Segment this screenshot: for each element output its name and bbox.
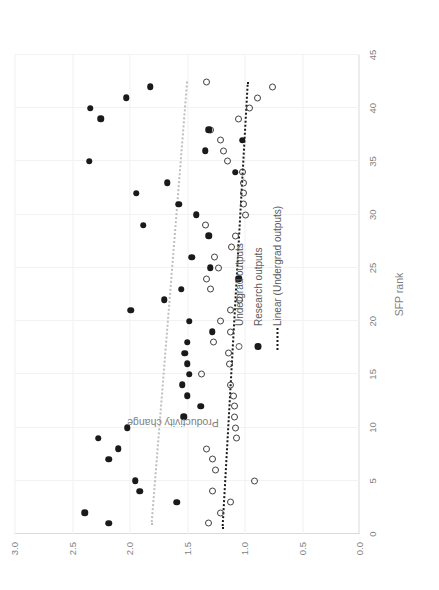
y-axis-title: Productivity change	[0, 251, 345, 590]
gridline-vertical	[14, 107, 359, 108]
data-point-research	[192, 211, 199, 218]
x-tick-label: 15	[366, 369, 377, 380]
gridline-vertical	[14, 214, 359, 215]
legend-label-research-outputs: Research outputs	[251, 248, 264, 326]
data-point-research	[122, 94, 129, 101]
data-point-undergrad	[201, 222, 208, 229]
data-point-research	[175, 201, 182, 208]
rotated-figure-wrapper: 0.00.51.01.52.02.53.0 051015202530354045…	[0, 0, 439, 590]
data-point-undergrad	[220, 147, 227, 154]
filled-circle-icon	[251, 326, 264, 352]
data-point-research	[202, 148, 209, 155]
legend-item-undergrad-outputs: Undergrad outputs	[232, 156, 245, 352]
data-point-research	[205, 126, 212, 133]
data-point-research	[238, 137, 245, 144]
data-point-undergrad	[253, 94, 260, 101]
data-point-research	[140, 222, 147, 229]
x-tick-label: 10	[366, 422, 377, 433]
gridline-vertical	[14, 54, 359, 55]
x-tick-label: 25	[366, 263, 377, 274]
data-point-undergrad	[245, 105, 252, 112]
x-tick-label: 30	[366, 209, 377, 220]
data-point-research	[164, 179, 171, 186]
data-point-undergrad	[203, 78, 210, 85]
data-point-research	[133, 190, 140, 197]
gridline-vertical	[14, 160, 359, 161]
x-tick-label: 45	[366, 50, 377, 61]
legend-label-linear-undergrad-outputs: Linear (Undergrad outputs)	[270, 206, 283, 326]
x-tick-label: 5	[366, 478, 377, 483]
data-point-research	[146, 84, 153, 91]
data-point-undergrad	[268, 83, 275, 90]
chart-legend: Undergrad outputs Research outputs Linea…	[232, 156, 289, 352]
x-tick-label: 20	[366, 316, 377, 327]
legend-item-linear-undergrad-outputs: Linear (Undergrad outputs)	[270, 156, 283, 352]
data-point-research	[86, 158, 93, 165]
data-point-research	[205, 233, 212, 240]
legend-item-research-outputs: Research outputs	[251, 156, 264, 352]
x-tick-label: 40	[366, 103, 377, 114]
y-tick-label: 0.0	[354, 542, 365, 590]
legend-label-undergrad-outputs: Undergrad outputs	[232, 243, 245, 326]
open-circle-icon	[232, 326, 245, 352]
data-point-research	[97, 116, 104, 123]
data-point-research	[87, 105, 94, 112]
dotted-line-icon	[270, 326, 283, 352]
data-point-undergrad	[223, 158, 230, 165]
scatter-chart: 0.00.51.01.52.02.53.0 051015202530354045…	[0, 0, 439, 590]
x-tick-label: 35	[366, 156, 377, 167]
data-point-undergrad	[216, 137, 223, 144]
data-point-undergrad	[235, 115, 242, 122]
x-tick-label: 0	[366, 531, 377, 536]
x-axis-title: SFP rank	[392, 55, 404, 534]
